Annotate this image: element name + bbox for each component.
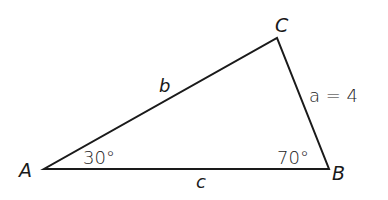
side-label-c: c [196, 171, 206, 192]
side-label-b: b [159, 75, 170, 96]
triangle-diagram: A B C b a = 4 c 30° 70° [0, 0, 388, 200]
angle-label-b: 70° [277, 147, 309, 168]
vertex-label-b: B [332, 162, 345, 184]
vertex-label-c: C [275, 14, 289, 36]
side-label-a: a = 4 [309, 85, 358, 106]
angle-label-a: 30° [83, 147, 115, 168]
vertex-label-a: A [17, 159, 32, 181]
